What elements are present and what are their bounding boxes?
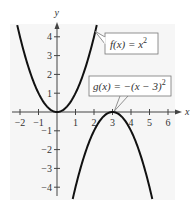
y-tick-label: 3 — [47, 50, 52, 61]
x-tick-label: 6 — [166, 117, 171, 128]
y-tick-label: −2 — [41, 144, 52, 155]
y-tick-label: 4 — [47, 31, 52, 42]
y-tick-label: 1 — [47, 88, 52, 99]
x-tick-label: 5 — [147, 117, 152, 128]
callout-g-label: g(x) = −(x − 3)2 — [93, 78, 166, 93]
y-axis-label: y — [54, 7, 60, 18]
y-tick-label: −1 — [41, 125, 52, 136]
callout-f-label-exponent: 2 — [143, 36, 147, 45]
chart: xy −2−11234564321−1−2−3−4 f(x) = x2g(x) … — [0, 0, 195, 208]
y-tick-label: −3 — [41, 163, 52, 174]
x-axis-label: x — [184, 106, 190, 117]
callout-f-label-main: f(x) = x — [110, 38, 143, 51]
y-tick-label: −4 — [41, 182, 52, 193]
callout-f-label: f(x) = x2 — [110, 36, 147, 51]
callout-g-label-main: g(x) = −(x − 3) — [93, 80, 162, 93]
x-tick-label: −2 — [15, 117, 26, 128]
x-tick-label: 3 — [110, 117, 115, 128]
callout-g-label-exponent: 2 — [162, 78, 166, 87]
y-tick-label: 2 — [47, 69, 52, 80]
x-axis-arrow-icon — [175, 110, 182, 115]
x-tick-label: 1 — [73, 117, 78, 128]
